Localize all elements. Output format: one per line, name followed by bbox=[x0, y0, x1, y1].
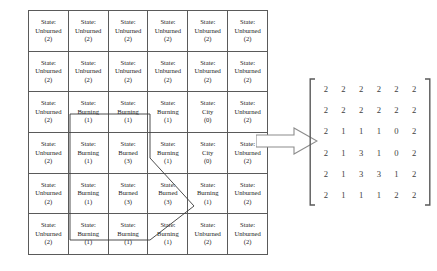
cell-state-prefix: State: bbox=[148, 140, 187, 148]
matrix-cell: 2 bbox=[317, 163, 335, 184]
cell-state-prefix: State: bbox=[69, 181, 108, 189]
cell-state-name: Unburned bbox=[29, 27, 68, 35]
cell-state-prefix: State: bbox=[228, 99, 267, 107]
cell-state-code: (3) bbox=[109, 157, 148, 165]
grid-cell: State: Unburned (2) bbox=[29, 92, 69, 133]
state-matrix: 2 2 2 2 2 2 2 2 2 2 2 2 2 1 bbox=[309, 78, 431, 206]
cell-state-code: (1) bbox=[69, 116, 108, 124]
grid-cell: State: Unburned (2) bbox=[188, 214, 228, 255]
cell-state-prefix: State: bbox=[29, 59, 68, 67]
cell-state-name: Unburned bbox=[188, 230, 227, 238]
cell-state-code: (2) bbox=[29, 76, 68, 84]
cell-state-name: Burning bbox=[109, 108, 148, 116]
matrix-cell: 0 bbox=[388, 121, 406, 142]
matrix-cell: 2 bbox=[317, 185, 335, 206]
matrix-cell: 1 bbox=[370, 185, 388, 206]
table-row: 2 1 3 1 0 2 bbox=[317, 142, 423, 163]
matrix-cell: 3 bbox=[352, 163, 370, 184]
cell-state-prefix: State: bbox=[148, 99, 187, 107]
cell-state-name: Burning bbox=[188, 189, 227, 197]
cell-state-prefix: State: bbox=[148, 181, 187, 189]
cell-state-name: Burning bbox=[148, 230, 187, 238]
grid-cell: State: Burned (3) bbox=[108, 132, 148, 173]
cell-state-name: Unburned bbox=[188, 27, 227, 35]
grid-cell: State: Unburned (2) bbox=[148, 11, 188, 52]
cell-state-code: (2) bbox=[29, 157, 68, 165]
grid-cell: State: Burning (1) bbox=[68, 132, 108, 173]
matrix-cell: 0 bbox=[388, 142, 406, 163]
cell-state-code: (0) bbox=[188, 157, 227, 165]
matrix-cell: 2 bbox=[352, 99, 370, 120]
matrix-cell: 1 bbox=[335, 185, 353, 206]
table-row: State: Unburned (2) State: Burning (1) S… bbox=[29, 92, 268, 133]
grid-cell: State: Burning (1) bbox=[148, 132, 188, 173]
grid-cell: State: Unburned (2) bbox=[228, 173, 268, 214]
matrix-cell: 1 bbox=[352, 185, 370, 206]
cell-state-name: Burning bbox=[69, 108, 108, 116]
matrix-cell: 1 bbox=[388, 163, 406, 184]
matrix-cell: 2 bbox=[405, 78, 423, 99]
cell-state-name: Burned bbox=[148, 189, 187, 197]
cell-state-name: Unburned bbox=[228, 230, 267, 238]
cell-state-name: Burning bbox=[148, 108, 187, 116]
cell-state-prefix: State: bbox=[69, 99, 108, 107]
cell-state-name: City bbox=[188, 149, 227, 157]
cell-state-code: (1) bbox=[148, 116, 187, 124]
grid-cell: State: Unburned (2) bbox=[108, 11, 148, 52]
cell-state-prefix: State: bbox=[109, 181, 148, 189]
cell-state-prefix: State: bbox=[29, 221, 68, 229]
cell-state-prefix: State: bbox=[188, 59, 227, 67]
cell-state-prefix: State: bbox=[69, 221, 108, 229]
cell-state-name: Unburned bbox=[188, 67, 227, 75]
table-row: 2 1 1 1 2 2 bbox=[317, 185, 423, 206]
grid-cell: State: Unburned (2) bbox=[29, 11, 69, 52]
cell-state-code: (2) bbox=[29, 35, 68, 43]
state-grid: State: Unburned (2) State: Unburned (2) … bbox=[28, 10, 268, 255]
cell-state-code: (3) bbox=[109, 198, 148, 206]
table-row: 2 2 2 2 2 2 bbox=[317, 78, 423, 99]
matrix-cell: 2 bbox=[317, 99, 335, 120]
cell-state-name: Unburned bbox=[228, 67, 267, 75]
cell-state-name: Unburned bbox=[228, 108, 267, 116]
table-row: State: Unburned (2) State: Burning (1) S… bbox=[29, 214, 268, 255]
cell-state-prefix: State: bbox=[69, 59, 108, 67]
cell-state-code: (2) bbox=[228, 76, 267, 84]
cell-state-code: (2) bbox=[109, 35, 148, 43]
cell-state-name: Unburned bbox=[29, 230, 68, 238]
grid-cell: State: Unburned (2) bbox=[188, 11, 228, 52]
cell-state-code: (2) bbox=[109, 76, 148, 84]
grid-cell: State: Unburned (2) bbox=[29, 173, 69, 214]
matrix-cell: 2 bbox=[335, 78, 353, 99]
grid-cell: State: Burning (1) bbox=[108, 214, 148, 255]
matrix-table: 2 2 2 2 2 2 2 2 2 2 2 2 2 1 bbox=[317, 78, 423, 206]
cell-state-name: Unburned bbox=[29, 108, 68, 116]
cell-state-prefix: State: bbox=[188, 181, 227, 189]
table-row: State: Unburned (2) State: Burning (1) S… bbox=[29, 173, 268, 214]
matrix-cell: 1 bbox=[370, 121, 388, 142]
cell-state-name: Unburned bbox=[109, 67, 148, 75]
cell-state-prefix: State: bbox=[29, 181, 68, 189]
matrix-cell: 1 bbox=[352, 121, 370, 142]
matrix-cell: 2 bbox=[405, 99, 423, 120]
matrix-left-bracket bbox=[309, 78, 316, 206]
matrix-cell: 2 bbox=[335, 99, 353, 120]
cell-state-prefix: State: bbox=[188, 140, 227, 148]
cell-state-code: (2) bbox=[228, 116, 267, 124]
cell-state-name: Burned bbox=[109, 149, 148, 157]
table-row: State: Unburned (2) State: Unburned (2) … bbox=[29, 51, 268, 92]
grid-cell: State: Unburned (2) bbox=[29, 132, 69, 173]
cell-state-code: (1) bbox=[188, 198, 227, 206]
cell-state-name: Burning bbox=[69, 149, 108, 157]
grid-cell: State: Burning (1) bbox=[68, 173, 108, 214]
cell-state-prefix: State: bbox=[228, 181, 267, 189]
grid-cell: State: Unburned (2) bbox=[148, 51, 188, 92]
cell-state-code: (1) bbox=[109, 116, 148, 124]
cell-state-prefix: State: bbox=[109, 59, 148, 67]
grid-cell: State: Unburned (2) bbox=[29, 51, 69, 92]
grid-cell: State: Burned (3) bbox=[108, 173, 148, 214]
cell-state-prefix: State: bbox=[188, 221, 227, 229]
cell-state-name: Unburned bbox=[228, 27, 267, 35]
matrix-cell: 2 bbox=[370, 78, 388, 99]
cell-state-name: Unburned bbox=[148, 67, 187, 75]
grid-cell: State: Burning (1) bbox=[148, 214, 188, 255]
